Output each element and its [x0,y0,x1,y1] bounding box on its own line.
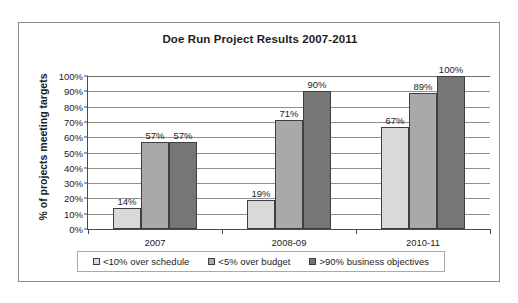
y-tick-label: 0% [69,224,83,235]
y-tick-label: 50% [64,147,83,158]
x-tick-mark [222,229,223,234]
bar-value-label: 57% [173,130,192,141]
chart-canvas: Doe Run Project Results 2007-2011 % of p… [0,0,518,303]
bar[interactable]: 67% [381,127,409,230]
y-tick-mark [84,213,88,214]
y-tick-label: 70% [64,116,83,127]
bar[interactable]: 57% [169,142,197,229]
y-tick-mark [84,137,88,138]
bar-group: 19%71%90% [247,76,331,229]
y-tick-mark [84,121,88,122]
bar[interactable]: 100% [437,76,465,229]
y-tick-label: 20% [64,193,83,204]
chart-title: Doe Run Project Results 2007-2011 [19,33,501,45]
x-category-label: 2010-11 [406,237,440,248]
bar[interactable]: 71% [275,120,303,229]
x-tick-mark [356,229,357,234]
bar-value-label: 14% [117,196,136,207]
y-tick-label: 40% [64,162,83,173]
legend-item[interactable]: <10% over schedule [93,256,189,267]
legend-label: <5% over budget [218,256,290,267]
chart-legend: <10% over schedule<5% over budget>90% bu… [77,251,445,272]
bar[interactable]: 19% [247,200,275,229]
plot-area: 0%10%20%30%40%50%60%70%80%90%100% 14%57%… [87,76,490,230]
y-tick-label: 60% [64,132,83,143]
y-tick-mark [84,183,88,184]
y-tick-mark [84,76,88,77]
legend-swatch-icon [208,258,215,265]
x-tick-mark [490,229,491,234]
bar[interactable]: 89% [409,93,437,229]
bar-value-label: 89% [413,81,432,92]
bar-group: 14%57%57% [113,76,197,229]
bar-value-label: 67% [385,115,404,126]
bar[interactable]: 90% [303,91,331,229]
y-tick-label: 100% [59,71,83,82]
y-tick-mark [84,198,88,199]
y-tick-label: 30% [64,178,83,189]
y-tick-label: 80% [64,101,83,112]
bar-group: 67%89%100% [381,76,465,229]
y-tick-label: 10% [64,208,83,219]
legend-label: >90% business objectives [319,256,429,267]
y-tick-mark [84,106,88,107]
bar-value-label: 100% [439,64,463,75]
y-tick-mark [84,152,88,153]
bar-value-label: 57% [145,130,164,141]
y-tick-mark [84,167,88,168]
bar-value-label: 19% [251,188,270,199]
chart-frame: Doe Run Project Results 2007-2011 % of p… [18,22,500,282]
x-category-label: 2007 [144,237,165,248]
legend-swatch-icon [93,258,100,265]
bar-value-label: 71% [279,108,298,119]
legend-label: <10% over schedule [103,256,189,267]
y-tick-label: 90% [64,86,83,97]
y-tick-mark [84,91,88,92]
bar-value-label: 90% [307,79,326,90]
legend-item[interactable]: <5% over budget [208,256,290,267]
x-category-label: 2008-09 [272,237,307,248]
legend-item[interactable]: >90% business objectives [309,256,429,267]
legend-swatch-icon [309,258,316,265]
bar[interactable]: 14% [113,208,141,229]
x-tick-mark [88,229,89,234]
bar[interactable]: 57% [141,142,169,229]
y-axis-title: % of projects meeting targets [37,57,49,237]
